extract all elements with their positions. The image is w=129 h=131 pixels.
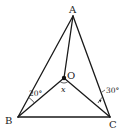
angle-arc-abo xyxy=(29,98,35,104)
label-point-c: C xyxy=(109,119,117,130)
angle-label-boc-x: x xyxy=(61,85,66,94)
angle-label-aco: 30° xyxy=(106,86,120,95)
angle-label-abo: 20° xyxy=(29,89,43,98)
angle-leader-aco xyxy=(102,90,105,92)
label-point-a: A xyxy=(68,4,77,15)
segment-ab xyxy=(18,16,73,117)
triangle-diagram: A B C O 20° 30° x xyxy=(0,0,129,131)
label-point-b: B xyxy=(5,115,12,126)
label-point-o: O xyxy=(67,70,75,81)
angle-arc-boc xyxy=(60,82,68,84)
point-o-dot xyxy=(62,76,66,80)
